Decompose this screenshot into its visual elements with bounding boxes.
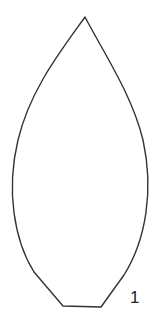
leaf-outline-figure	[0, 0, 157, 325]
leaf-outline	[12, 17, 148, 307]
figure-label: 1	[130, 289, 139, 306]
